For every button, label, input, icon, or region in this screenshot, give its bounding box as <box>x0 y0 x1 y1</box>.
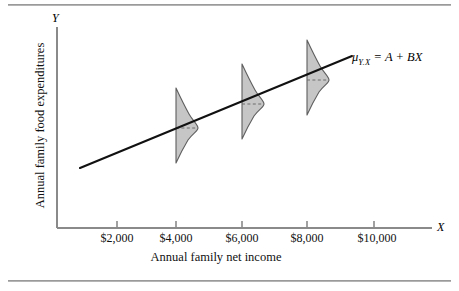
x-tick-label-6000: $6,000 <box>207 231 277 246</box>
mu-subscript: Y.X <box>358 57 370 67</box>
regression-equation-label: μY.X = A + BX <box>352 50 422 67</box>
x-axis-title: Annual family net income <box>57 250 375 265</box>
regression-figure: Y X Annual family food expenditures Annu… <box>0 0 459 291</box>
y-axis-title: Annual family food expenditures <box>33 26 48 226</box>
distribution-curve-6000 <box>242 64 264 139</box>
distribution-curve-4000 <box>176 88 198 163</box>
plot-area <box>0 0 459 291</box>
equation-rhs: = A + BX <box>374 50 423 64</box>
distribution-curve-8000 <box>307 40 329 115</box>
x-tick-label-8000: $8,000 <box>272 231 342 246</box>
x-axis-symbol: X <box>437 220 444 235</box>
x-tick-label-10000: $10,000 <box>342 231 412 246</box>
x-tick-label-4000: $4,000 <box>141 231 211 246</box>
x-axis-ticks <box>117 221 374 228</box>
conditional-distribution-curves <box>176 40 329 163</box>
regression-line <box>80 56 352 168</box>
y-axis-symbol: Y <box>52 11 59 26</box>
